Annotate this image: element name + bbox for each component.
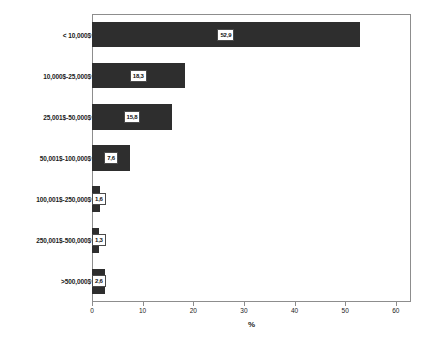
bar-value-row: 1,6 (92, 186, 411, 212)
bar-value-label: 1,3 (92, 234, 106, 246)
bar-value-label: 7,6 (104, 152, 118, 164)
bar-value-row: 15,8 (92, 104, 411, 130)
x-axis: % 0102030405060 (92, 302, 411, 342)
x-axis-tick-mark (345, 302, 346, 306)
bar-value-label: 1,6 (92, 193, 106, 205)
x-axis-tick-label: 60 (392, 307, 399, 314)
bar-value-row: 52,9 (92, 22, 411, 48)
x-axis-tick-label: 30 (240, 307, 247, 314)
bar-value-row: 2,6 (92, 269, 411, 295)
bar-value-row: 1,3 (92, 228, 411, 254)
y-axis-tick-label: 100,001$-250,000$ (36, 196, 91, 203)
bars-layer: 52,918,315,87,61,61,32,6 (92, 14, 411, 302)
bar-value-row: 7,6 (92, 145, 411, 171)
x-axis-tick-mark (193, 302, 194, 306)
x-axis-tick-label: 0 (90, 307, 94, 314)
x-axis-tick-label: 10 (139, 307, 146, 314)
bar-value-label: 18,3 (130, 70, 147, 82)
x-axis-tick-mark (143, 302, 144, 306)
x-axis-tick-label: 20 (190, 307, 197, 314)
x-axis-title: % (92, 320, 411, 329)
x-axis-tick-label: 40 (291, 307, 298, 314)
y-axis-tick-label: 250,001$-500,000$ (36, 237, 91, 244)
y-axis-tick-label: 10,000$-25,000$ (43, 72, 91, 79)
caption-fragment (8, 342, 308, 354)
y-axis-category-labels: < 10,000$10,000$-25,000$25,001$-50,000$5… (0, 14, 91, 302)
bar-chart-figure: < 10,000$10,000$-25,000$25,001$-50,000$5… (0, 0, 428, 354)
x-axis-tick-mark (396, 302, 397, 306)
x-axis-tick-mark (244, 302, 245, 306)
x-axis-tick-mark (92, 302, 93, 306)
y-axis-tick-label: 50,001$-100,000$ (40, 155, 91, 162)
bar-value-label: 2,6 (92, 275, 106, 287)
x-axis-tick-label: 50 (342, 307, 349, 314)
bar-value-label: 15,8 (124, 111, 141, 123)
bar-value-row: 18,3 (92, 63, 411, 89)
x-axis-tick-mark (295, 302, 296, 306)
bar-value-label: 52,9 (217, 29, 234, 41)
y-axis-tick-label: 25,001$-50,000$ (43, 113, 91, 120)
